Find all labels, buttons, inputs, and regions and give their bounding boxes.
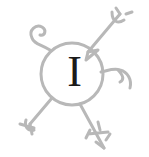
curl-limb: [31, 26, 50, 50]
drop-cap-letter: I: [0, 48, 149, 96]
emblem-illustration: I: [0, 0, 149, 157]
trident-limb-bottom: [30, 98, 52, 124]
